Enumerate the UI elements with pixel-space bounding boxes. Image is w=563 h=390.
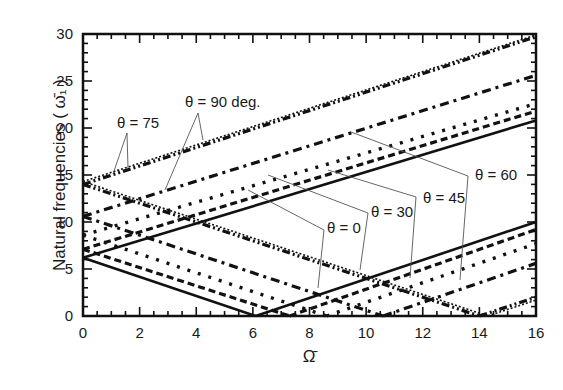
theta-annotation: θ = 90 deg. (185, 93, 260, 110)
x-tick-label: 6 (249, 324, 257, 341)
x-tick-label: 2 (135, 324, 143, 341)
theta-annotation: θ = 75 (117, 114, 159, 131)
series-line (83, 35, 536, 182)
series-line (83, 37, 536, 185)
leader-line (318, 230, 324, 288)
series-line (256, 222, 536, 316)
series-line (488, 300, 536, 316)
x-tick-label: 16 (528, 324, 545, 341)
series-line (83, 75, 536, 216)
series-line (83, 120, 536, 257)
tick-label-layer: 0246810121416051015202530 (56, 25, 544, 341)
leader-line (360, 213, 368, 270)
series-line (83, 249, 290, 316)
theta-annotation: θ = 60 (475, 166, 517, 183)
x-tick-label: 10 (358, 324, 375, 341)
x-tick-label: 8 (305, 324, 313, 341)
x-tick-label: 0 (79, 324, 87, 341)
leader-line (268, 175, 368, 213)
theta-annotation: θ = 0 (327, 219, 361, 236)
x-tick-label: 12 (414, 324, 431, 341)
y-tick-label: 0 (65, 307, 73, 324)
leader-line (198, 113, 203, 140)
x-tick-label: 4 (192, 324, 200, 341)
theta-annotation: θ = 30 (371, 203, 413, 220)
leader-line (127, 133, 128, 168)
x-tick-label: 14 (471, 324, 488, 341)
leader-line (351, 132, 468, 176)
series-dotted (83, 104, 536, 316)
leader-line (328, 170, 416, 197)
theta-annotation: θ = 45 (423, 189, 465, 206)
series-line (326, 244, 536, 316)
natural-frequency-chart: θ = 90 deg.θ = 75θ = 60θ = 45θ = 30θ = 0… (0, 0, 563, 390)
leader-line (165, 113, 198, 190)
series-dotted-thin (83, 35, 536, 316)
y-tick-label: 30 (56, 25, 73, 42)
series-layer (83, 35, 536, 316)
series-line (383, 263, 536, 316)
plot-frame (83, 34, 536, 316)
x-axis-title: Ω̄ (303, 347, 319, 366)
tick-layer (83, 34, 536, 316)
y-axis-title: Natural frequencies ( ω̄₁ ) (50, 79, 69, 271)
series-line (83, 184, 479, 316)
